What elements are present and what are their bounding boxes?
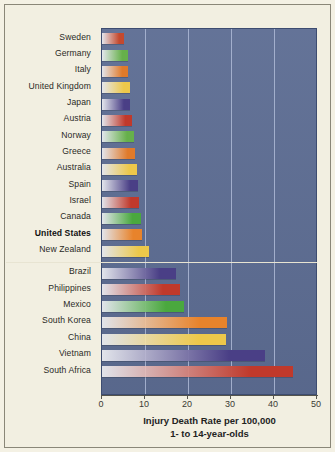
bar-israel bbox=[102, 197, 139, 208]
category-label-spain: Spain bbox=[5, 179, 91, 190]
x-tick-label-30: 30 bbox=[225, 399, 235, 409]
bar-vietnam bbox=[102, 350, 265, 361]
bar-australia bbox=[102, 164, 137, 175]
category-label-philippines: Philippines bbox=[5, 283, 91, 294]
bar-japan bbox=[102, 99, 130, 110]
category-label-australia: Australia bbox=[5, 162, 91, 173]
category-label-china: China bbox=[5, 332, 91, 343]
bar-united-kingdom bbox=[102, 82, 130, 93]
bar-series bbox=[102, 29, 316, 394]
x-tick-label-20: 20 bbox=[182, 399, 192, 409]
category-label-new-zealand: New Zealand bbox=[5, 244, 91, 255]
bar-austria bbox=[102, 115, 132, 126]
category-label-canada: Canada bbox=[5, 211, 91, 222]
category-label-japan: Japan bbox=[5, 97, 91, 108]
category-label-italy: Italy bbox=[5, 64, 91, 75]
category-label-united-states: United States bbox=[5, 228, 91, 239]
x-axis-line bbox=[101, 395, 318, 396]
x-tick-label-50: 50 bbox=[311, 399, 321, 409]
bar-new-zealand bbox=[102, 246, 149, 257]
chart-page: SwedenGermanyItalyUnited KingdomJapanAus… bbox=[0, 0, 335, 452]
bar-canada bbox=[102, 213, 141, 224]
category-label-south-korea: South Korea bbox=[5, 315, 91, 326]
category-label-germany: Germany bbox=[5, 48, 91, 59]
bar-greece bbox=[102, 148, 135, 159]
category-label-south-africa: South Africa bbox=[5, 365, 91, 376]
bar-sweden bbox=[102, 33, 124, 44]
x-tick-label-0: 0 bbox=[98, 399, 103, 409]
bar-mexico bbox=[102, 301, 184, 312]
category-label-united-kingdom: United Kingdom bbox=[5, 81, 91, 92]
bar-norway bbox=[102, 131, 134, 142]
x-tick-label-10: 10 bbox=[139, 399, 149, 409]
bar-china bbox=[102, 334, 226, 345]
bar-spain bbox=[102, 180, 138, 191]
x-tick-label-40: 40 bbox=[268, 399, 278, 409]
category-label-austria: Austria bbox=[5, 113, 91, 124]
chart-frame: SwedenGermanyItalyUnited KingdomJapanAus… bbox=[4, 4, 331, 448]
category-label-brazil: Brazil bbox=[5, 266, 91, 277]
bar-brazil bbox=[102, 268, 176, 279]
plot-area bbox=[101, 28, 317, 395]
bar-united-states bbox=[102, 229, 142, 240]
x-axis-title-line2: 1- to 14-year-olds bbox=[101, 428, 318, 439]
bar-philippines bbox=[102, 284, 180, 295]
bar-germany bbox=[102, 50, 128, 61]
category-label-norway: Norway bbox=[5, 130, 91, 141]
category-label-greece: Greece bbox=[5, 146, 91, 157]
x-axis-title-line1: Injury Death Rate per 100,000 bbox=[101, 415, 318, 426]
category-label-mexico: Mexico bbox=[5, 299, 91, 310]
bar-south-korea bbox=[102, 317, 227, 328]
category-label-sweden: Sweden bbox=[5, 32, 91, 43]
bar-south-africa bbox=[102, 366, 293, 377]
bar-italy bbox=[102, 66, 128, 77]
category-label-vietnam: Vietnam bbox=[5, 348, 91, 359]
category-label-israel: Israel bbox=[5, 195, 91, 206]
